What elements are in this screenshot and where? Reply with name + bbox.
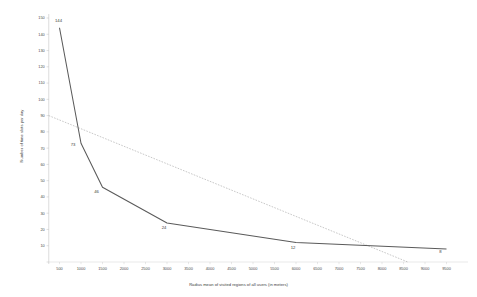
y-axis-title: Number of time slots per day — [19, 56, 24, 216]
x-tick-label: 9500 — [432, 266, 462, 271]
y-tick-label: 80 — [23, 129, 45, 134]
y-tick-label: 130 — [23, 48, 45, 53]
x-axis-title: Radius mean of visited regions of all us… — [0, 282, 477, 287]
y-tick-label: 60 — [23, 162, 45, 167]
data-point-label: 8 — [431, 249, 451, 254]
data-point-label: 46 — [87, 189, 107, 194]
y-tick-label: 100 — [23, 97, 45, 102]
x-axis-tick-marks — [60, 262, 447, 264]
data-point-label: 144 — [49, 18, 69, 23]
y-tick-label: 20 — [23, 227, 45, 232]
y-tick-label: 140 — [23, 32, 45, 37]
y-tick-label: 150 — [23, 15, 45, 20]
y-tick-label: 30 — [23, 211, 45, 216]
chart-plot-area — [0, 0, 477, 297]
data-point-label: 24 — [154, 225, 174, 230]
y-tick-label: 90 — [23, 113, 45, 118]
chart-container: 150140130120110100908070605040302010 500… — [0, 0, 477, 297]
y-tick-label: 120 — [23, 64, 45, 69]
y-tick-label: 110 — [23, 80, 45, 85]
data-point-label: 73 — [63, 142, 83, 147]
main-line-series — [60, 28, 447, 249]
y-axis-tick-marks — [47, 18, 49, 262]
data-point-label: 12 — [283, 245, 303, 250]
y-tick-label: 50 — [23, 178, 45, 183]
y-tick-label: 40 — [23, 194, 45, 199]
y-tick-label: 10 — [23, 243, 45, 248]
y-tick-label: 70 — [23, 146, 45, 151]
